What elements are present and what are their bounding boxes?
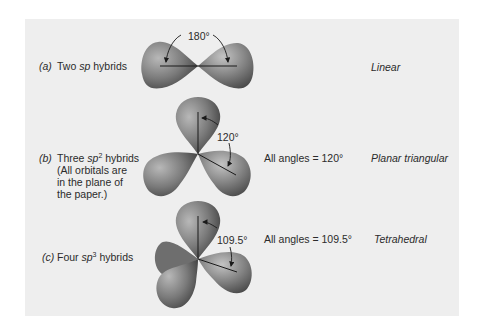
geometry-tetrahedral: Tetrahedral: [374, 233, 427, 245]
sp3-orbital: [155, 201, 252, 308]
row-b-description: Three sp2 hybrids: [57, 152, 139, 164]
row-a-letter: (a): [39, 60, 52, 72]
geometry-linear: Linear: [371, 61, 400, 73]
row-b-note-line-3: the paper.): [57, 188, 107, 200]
row-b-note-line-2: in the plane of: [57, 176, 123, 188]
row-b-note-line-1: (All orbitals are: [57, 164, 127, 176]
row-a-description: Two sp hybrids: [57, 60, 127, 72]
all-angles-109-5: All angles = 109.5°: [264, 233, 352, 245]
all-angles-120: All angles = 120°: [264, 152, 343, 164]
sp-orbital: [141, 35, 253, 88]
geometry-planar-triangular: Planar triangular: [371, 152, 448, 164]
row-c-description: Four sp3 hybrids: [57, 251, 133, 263]
sp2-orbital: [143, 97, 251, 196]
angle-label-180: 180°: [187, 30, 211, 42]
angle-label-120: 120°: [217, 131, 239, 143]
row-c-letter: (c): [42, 251, 54, 263]
row-b-letter: (b): [39, 152, 52, 164]
angle-label-109-5: 109.5°: [217, 234, 247, 246]
